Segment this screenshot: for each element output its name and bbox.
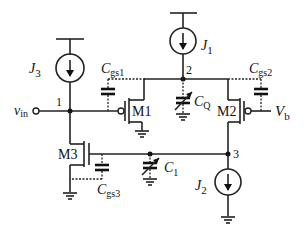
vb-label: Vb xyxy=(275,103,290,122)
cgs2-label: Cgs2 xyxy=(249,61,272,78)
pmos-bubble-icon xyxy=(118,108,124,114)
j2-label: J2 xyxy=(195,178,207,196)
m2-label: M2 xyxy=(217,104,236,119)
current-source-j1 xyxy=(170,13,197,79)
cq-label: CQ xyxy=(194,94,211,111)
node-3-label: 3 xyxy=(233,147,239,161)
j1-label: J1 xyxy=(201,38,213,56)
m3-label: M3 xyxy=(58,147,77,162)
current-source-j2 xyxy=(215,154,241,223)
arrow-down-icon xyxy=(224,184,232,191)
vin-terminal-icon xyxy=(33,108,39,114)
variable-capacitor-cq xyxy=(175,79,192,120)
j3-label: J3 xyxy=(29,61,41,79)
arrow-down-icon xyxy=(66,70,74,77)
cgs1-label: Cgs1 xyxy=(101,61,124,78)
node-1-label: 1 xyxy=(56,95,62,109)
pmos-bubble-icon xyxy=(245,108,251,114)
cgs3-label: Cgs3 xyxy=(97,182,120,199)
m1-label: M1 xyxy=(132,104,151,119)
circuit-diagram: J3 vin 1 Cgs1 M1 2 J1 xyxy=(0,0,307,233)
node-2-label: 2 xyxy=(186,63,192,77)
variable-capacitor-c1 xyxy=(142,152,159,186)
arrow-down-icon xyxy=(179,43,187,50)
vin-label: vin xyxy=(14,103,28,119)
c1-label: C1 xyxy=(164,160,178,178)
